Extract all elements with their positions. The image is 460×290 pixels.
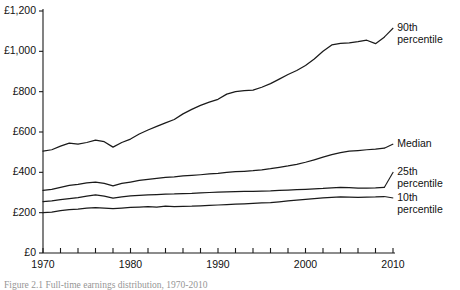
series-leader-line [384, 197, 393, 198]
series-label-25th-percentile: 25th percentile [397, 166, 443, 189]
series-line [43, 197, 384, 213]
x-axis-tick-label: 1990 [193, 259, 243, 270]
series-line [43, 148, 384, 190]
y-axis-tick-label: £0 [24, 247, 36, 258]
figure-caption: Figure 2.1 Full-time earnings distributi… [4, 280, 207, 290]
series-label-10th-percentile: 10th percentile [397, 192, 443, 215]
y-axis-tick-label: £1,200 [4, 5, 36, 16]
y-axis-ticks [39, 11, 43, 253]
series-label-90th-percentile: 90th percentile [397, 22, 443, 45]
series-leader-line [384, 144, 393, 148]
y-axis-tick-label: £600 [13, 126, 36, 137]
y-axis-tick-label: £400 [13, 166, 36, 177]
label-leader-lines [384, 28, 393, 198]
x-axis-tick-label: 2010 [368, 259, 418, 270]
series-line [43, 37, 384, 151]
series-leader-line [384, 172, 393, 187]
chart-series-lines [43, 37, 384, 212]
x-axis-ticks [43, 248, 393, 253]
series-line [43, 187, 384, 201]
x-axis-tick-label: 2000 [281, 259, 331, 270]
x-axis-tick-label: 1980 [106, 259, 156, 270]
chart-axes [39, 9, 395, 253]
x-axis-tick-label: 1970 [18, 259, 68, 270]
y-axis-tick-label: £800 [13, 86, 36, 97]
series-leader-line [384, 28, 393, 37]
y-axis-tick-label: £1,000 [4, 45, 36, 56]
series-label-median: Median [397, 138, 431, 150]
y-axis-tick-label: £200 [13, 207, 36, 218]
